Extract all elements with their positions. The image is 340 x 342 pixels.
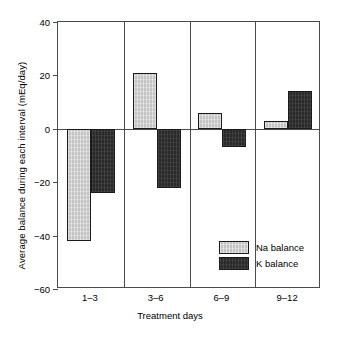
x-tick-label: 1–3 [82, 292, 98, 303]
legend-item-k: K balance [219, 257, 304, 270]
y-tick-mark [53, 236, 58, 237]
bar-k-balance-1-3 [91, 129, 115, 193]
bar-na-balance-9-12 [264, 121, 288, 129]
y-tick-label: −40 [34, 230, 50, 241]
na-swatch-icon [219, 241, 249, 254]
bar-k-balance-9-12 [288, 91, 312, 128]
group-separator [190, 22, 191, 287]
legend-item-na: Na balance [219, 241, 304, 254]
y-tick-mark [53, 75, 58, 76]
y-axis-title: Average balance during each interval (mE… [16, 41, 27, 291]
y-tick-label: 40 [39, 17, 50, 28]
group-separator [124, 22, 125, 287]
x-axis-title: Treatment days [0, 310, 340, 321]
bar-na-balance-1-3 [67, 129, 91, 241]
legend-label-na: Na balance [256, 242, 304, 253]
y-tick-mark [53, 289, 58, 290]
bar-k-balance-6-9 [222, 129, 246, 148]
x-tick-label: 9–12 [277, 292, 298, 303]
y-tick-label: 0 [45, 123, 50, 134]
bar-na-balance-3-6 [133, 73, 157, 129]
x-tick-label: 6–9 [213, 292, 229, 303]
bar-na-balance-6-9 [198, 113, 222, 129]
legend: Na balance K balance [219, 241, 304, 273]
bar-k-balance-3-6 [157, 129, 181, 188]
y-tick-label: 20 [39, 70, 50, 81]
y-tick-mark [53, 129, 58, 130]
y-tick-label: −60 [34, 284, 50, 295]
x-tick-label: 3–6 [148, 292, 164, 303]
chart-figure: Average balance during each interval (mE… [0, 0, 340, 342]
y-tick-mark [53, 22, 58, 23]
k-swatch-icon [219, 257, 249, 270]
y-tick-label: −20 [34, 177, 50, 188]
y-tick-mark [53, 182, 58, 183]
legend-label-k: K balance [256, 258, 298, 269]
